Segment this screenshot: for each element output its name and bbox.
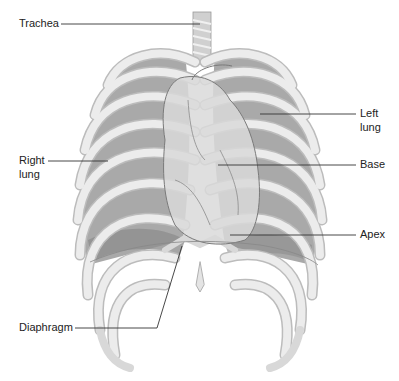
left-lung-label-line2: lung [360, 121, 381, 134]
left-lung-label-line1: Left [360, 107, 378, 120]
right-lung-label-line2: lung [19, 168, 40, 181]
diaphragm-label: Diaphragm [19, 321, 73, 334]
thorax-diagram: Trachea Left lung Right lung Base Apex D… [0, 0, 399, 381]
base-label: Base [360, 158, 385, 171]
trachea-label: Trachea [19, 17, 59, 30]
apex-label: Apex [360, 228, 385, 241]
right-lung-label-line1: Right [19, 154, 45, 167]
